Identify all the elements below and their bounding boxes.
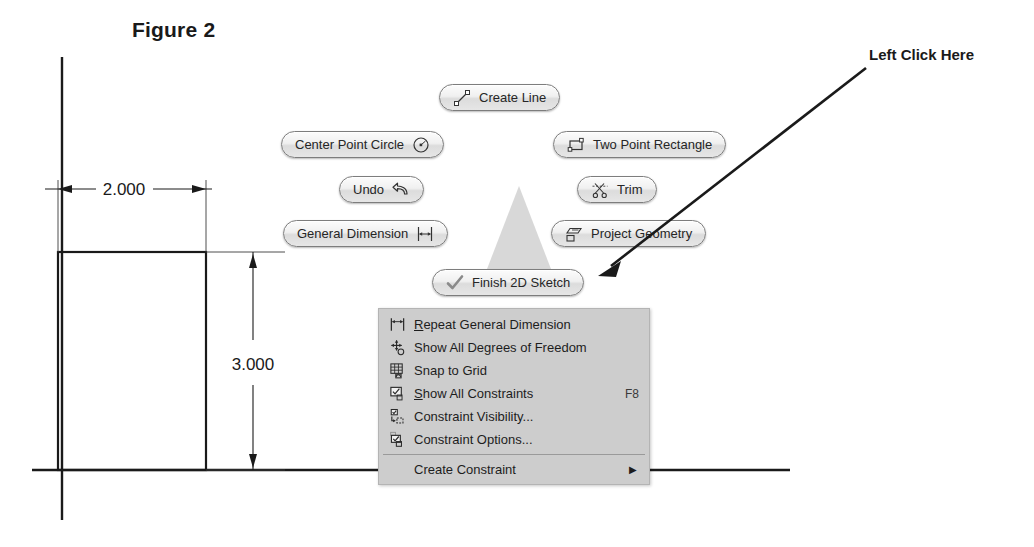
callout-arrow xyxy=(0,0,1034,547)
figure-canvas: Figure 2 Left Click Here 2.000 3.000 xyxy=(0,0,1034,547)
